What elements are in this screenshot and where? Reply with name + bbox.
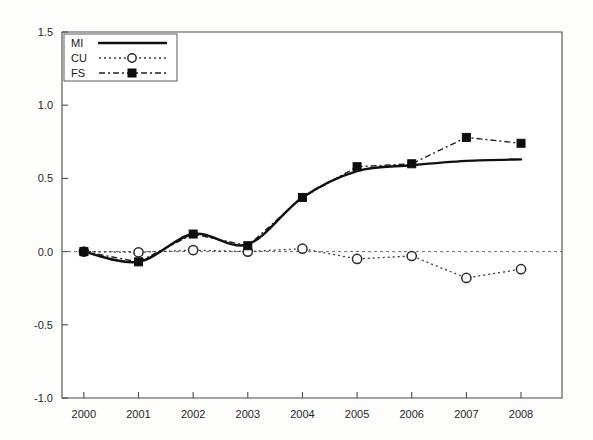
legend-label-fs: FS xyxy=(71,67,85,79)
x-tick-label: 2005 xyxy=(345,408,369,420)
x-tick-label: 2002 xyxy=(181,408,205,420)
data-point-cu xyxy=(134,248,143,257)
legend-marker-cu xyxy=(128,54,136,62)
data-point-fs xyxy=(80,248,88,256)
line-chart: -1.0-0.50.00.51.01.5 2000200120022003200… xyxy=(0,0,593,440)
x-tick-label: 2008 xyxy=(509,408,533,420)
figure-canvas: -1.0-0.50.00.51.01.5 2000200120022003200… xyxy=(0,0,593,440)
y-tick-label: 1.5 xyxy=(38,26,53,38)
data-point-cu xyxy=(407,251,416,260)
data-point-fs xyxy=(189,230,197,238)
y-tick-label: -1.0 xyxy=(34,392,53,404)
data-point-fs xyxy=(135,258,143,266)
data-point-fs xyxy=(298,193,306,201)
data-point-fs xyxy=(517,139,525,147)
legend-label-cu: CU xyxy=(71,52,87,64)
x-axis-tick-labels: 200020012002200320042005200620072008 xyxy=(72,408,534,420)
data-point-cu xyxy=(352,254,361,263)
y-tick-label: 0.0 xyxy=(38,246,53,258)
data-point-cu xyxy=(189,246,198,255)
x-tick-label: 2004 xyxy=(290,408,314,420)
plot-frame xyxy=(62,32,562,398)
data-point-fs xyxy=(408,160,416,168)
plot-background xyxy=(62,32,562,398)
y-tick-label: 0.5 xyxy=(38,172,53,184)
data-point-cu xyxy=(298,244,307,253)
data-point-fs xyxy=(353,163,361,171)
x-tick-label: 2003 xyxy=(236,408,260,420)
data-point-cu xyxy=(462,273,471,282)
y-axis-tick-labels: -1.0-0.50.00.51.01.5 xyxy=(34,26,53,404)
x-tick-label: 2006 xyxy=(399,408,423,420)
x-tick-label: 2001 xyxy=(126,408,150,420)
data-point-fs xyxy=(244,242,252,250)
data-point-fs xyxy=(462,133,470,141)
legend-marker-fs xyxy=(128,69,136,77)
legend-label-mi: MI xyxy=(71,37,83,49)
y-tick-label: 1.0 xyxy=(38,99,53,111)
y-tick-label: -0.5 xyxy=(34,319,53,331)
x-tick-label: 2007 xyxy=(454,408,478,420)
data-point-cu xyxy=(516,265,525,274)
x-tick-label: 2000 xyxy=(72,408,96,420)
